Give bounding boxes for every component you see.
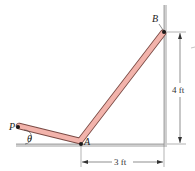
wall-surface [164, 5, 167, 147]
label-theta: θ [27, 133, 32, 144]
ground-surface [16, 144, 166, 147]
label-p: P [8, 121, 15, 132]
dim-label-vertical: 4 ft [172, 85, 185, 95]
pin-b [162, 30, 166, 34]
label-b: B [152, 13, 158, 24]
bent-rod [19, 33, 163, 141]
diagram-canvas: P A B θ 4 ft 3 ft [0, 0, 195, 171]
b-leader-line [159, 24, 163, 30]
arrowhead-right [157, 160, 163, 164]
dim-label-horizontal: 3 ft [114, 157, 127, 167]
arrowhead-up [178, 33, 182, 39]
edge-tick [191, 47, 195, 48]
label-a: A [83, 136, 91, 147]
pin-p [16, 125, 20, 129]
arrowhead-left [82, 160, 88, 164]
pin-a [79, 142, 83, 146]
arrowhead-down [178, 137, 182, 143]
